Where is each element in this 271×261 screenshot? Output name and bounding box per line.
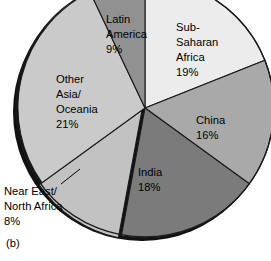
- pie-label-line: Other: [56, 73, 84, 85]
- pie-label-line: America: [106, 28, 148, 40]
- pie-label-line: India: [138, 166, 163, 178]
- pie-chart-figure: Sub- Saharan Africa 19% China 16% India …: [0, 0, 271, 261]
- pie-label-line: Latin: [106, 13, 130, 25]
- pie-label-line: Near East/: [4, 185, 58, 197]
- pie-label-line: 19%: [176, 66, 198, 78]
- pie-label-line: Oceania: [56, 103, 98, 115]
- pie-label-near-east-north-africa: Near East/ North Africa 8%: [4, 185, 63, 227]
- figure-caption: (b): [6, 237, 20, 249]
- pie-label-line: Sub-: [176, 21, 200, 33]
- pie-label-line: 9%: [106, 43, 122, 55]
- pie-label-line: 8%: [4, 215, 20, 227]
- pie-label-line: Saharan: [176, 36, 218, 48]
- pie-label-line: Africa: [176, 51, 205, 63]
- pie-label-line: North Africa: [4, 200, 63, 212]
- pie-label-line: 16%: [196, 129, 218, 141]
- pie-label-line: 18%: [138, 181, 160, 193]
- pie-label-line: Asia/: [56, 88, 82, 100]
- pie-chart-svg: Sub- Saharan Africa 19% China 16% India …: [0, 0, 271, 261]
- pie-label-line: 21%: [56, 118, 78, 130]
- pie-label-line: China: [196, 114, 226, 126]
